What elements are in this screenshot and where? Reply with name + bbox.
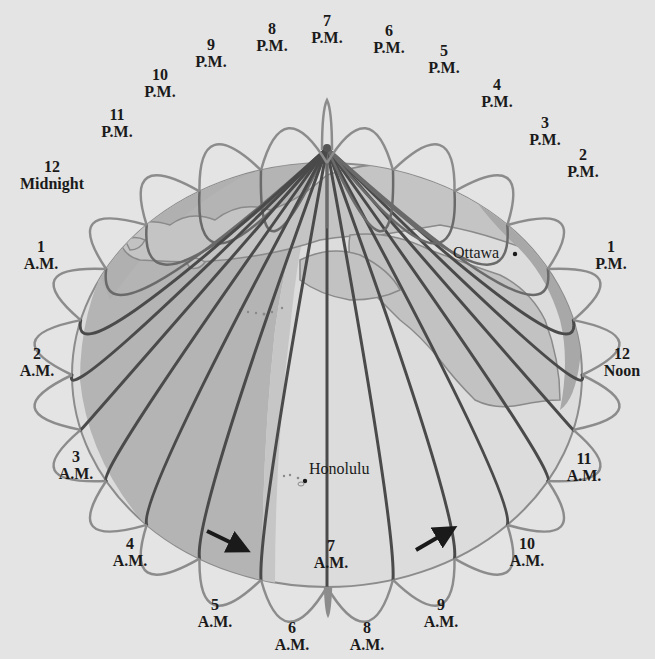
time-label-suffix: P.M. bbox=[144, 83, 175, 100]
time-label-number: 2 bbox=[567, 146, 598, 163]
time-label-number: 3 bbox=[59, 448, 94, 465]
time-label-number: 8 bbox=[350, 619, 385, 636]
time-label-suffix: P.M. bbox=[428, 59, 459, 76]
time-label-number: 5 bbox=[428, 42, 459, 59]
time-label-number: 9 bbox=[424, 596, 459, 613]
time-label-4am: 4A.M. bbox=[113, 535, 148, 569]
time-label-suffix: A.M. bbox=[314, 554, 349, 571]
time-label-3am: 3A.M. bbox=[59, 448, 94, 482]
time-label-3pm: 3P.M. bbox=[529, 114, 560, 148]
time-label-number: 9 bbox=[195, 36, 226, 53]
time-label-suffix: A.M. bbox=[59, 465, 94, 482]
time-label-6am: 6A.M. bbox=[275, 619, 310, 653]
time-label-suffix: P.M. bbox=[529, 131, 560, 148]
time-label-suffix: Midnight bbox=[20, 175, 84, 192]
time-label-suffix: P.M. bbox=[595, 255, 626, 272]
time-label-suffix: P.M. bbox=[481, 93, 512, 110]
time-label-10am: 10A.M. bbox=[510, 535, 545, 569]
time-label-number: 10 bbox=[144, 66, 175, 83]
time-label-7am: 7A.M. bbox=[314, 537, 349, 571]
time-label-number: 12 bbox=[20, 158, 84, 175]
time-label-11pm: 11P.M. bbox=[101, 106, 132, 140]
time-label-suffix: A.M. bbox=[24, 255, 59, 272]
time-label-number: 6 bbox=[275, 619, 310, 636]
time-label-suffix: A.M. bbox=[275, 636, 310, 653]
time-label-suffix: A.M. bbox=[198, 613, 233, 630]
city-label-honolulu: Honolulu bbox=[309, 460, 369, 478]
time-label-9pm: 9P.M. bbox=[195, 36, 226, 70]
time-label-number: 11 bbox=[101, 106, 132, 123]
time-label-12midnight: 12Midnight bbox=[20, 158, 84, 192]
ottawa-dot bbox=[513, 252, 517, 256]
time-label-suffix: P.M. bbox=[567, 163, 598, 180]
time-label-8pm: 8P.M. bbox=[256, 20, 287, 54]
time-label-number: 11 bbox=[567, 450, 602, 467]
time-label-9am: 9A.M. bbox=[424, 596, 459, 630]
time-label-suffix: P.M. bbox=[195, 53, 226, 70]
time-label-2pm: 2P.M. bbox=[567, 146, 598, 180]
time-label-1am: 1A.M. bbox=[24, 238, 59, 272]
time-label-10pm: 10P.M. bbox=[144, 66, 175, 100]
time-label-number: 12 bbox=[604, 345, 640, 362]
north-pole-marker bbox=[323, 144, 331, 152]
time-label-number: 1 bbox=[595, 238, 626, 255]
time-label-number: 6 bbox=[373, 22, 404, 39]
time-label-suffix: A.M. bbox=[350, 636, 385, 653]
time-label-number: 2 bbox=[20, 345, 55, 362]
time-label-number: 4 bbox=[481, 76, 512, 93]
time-label-number: 1 bbox=[24, 238, 59, 255]
time-label-2am: 2A.M. bbox=[20, 345, 55, 379]
time-label-suffix: Noon bbox=[604, 362, 640, 379]
time-label-suffix: P.M. bbox=[311, 29, 342, 46]
time-label-12noon: 12Noon bbox=[604, 345, 640, 379]
time-label-number: 7 bbox=[314, 537, 349, 554]
time-zone-diagram: 7P.M.8P.M.9P.M.10P.M.11P.M.12Midnight1A.… bbox=[0, 0, 655, 659]
time-label-6pm: 6P.M. bbox=[373, 22, 404, 56]
time-label-5pm: 5P.M. bbox=[428, 42, 459, 76]
time-label-1pm: 1P.M. bbox=[595, 238, 626, 272]
time-label-suffix: A.M. bbox=[20, 362, 55, 379]
time-label-7pm: 7P.M. bbox=[311, 12, 342, 46]
time-label-suffix: A.M. bbox=[424, 613, 459, 630]
time-label-number: 8 bbox=[256, 20, 287, 37]
time-label-suffix: A.M. bbox=[113, 552, 148, 569]
time-label-number: 3 bbox=[529, 114, 560, 131]
time-label-suffix: P.M. bbox=[256, 37, 287, 54]
time-label-number: 4 bbox=[113, 535, 148, 552]
time-label-5am: 5A.M. bbox=[198, 596, 233, 630]
city-label-ottawa: Ottawa bbox=[453, 244, 499, 262]
time-label-suffix: A.M. bbox=[510, 552, 545, 569]
time-label-number: 5 bbox=[198, 596, 233, 613]
time-label-number: 10 bbox=[510, 535, 545, 552]
time-label-suffix: P.M. bbox=[101, 123, 132, 140]
time-label-4pm: 4P.M. bbox=[481, 76, 512, 110]
time-label-11am: 11A.M. bbox=[567, 450, 602, 484]
time-label-suffix: A.M. bbox=[567, 467, 602, 484]
time-label-8am: 8A.M. bbox=[350, 619, 385, 653]
time-label-number: 7 bbox=[311, 12, 342, 29]
time-label-suffix: P.M. bbox=[373, 39, 404, 56]
